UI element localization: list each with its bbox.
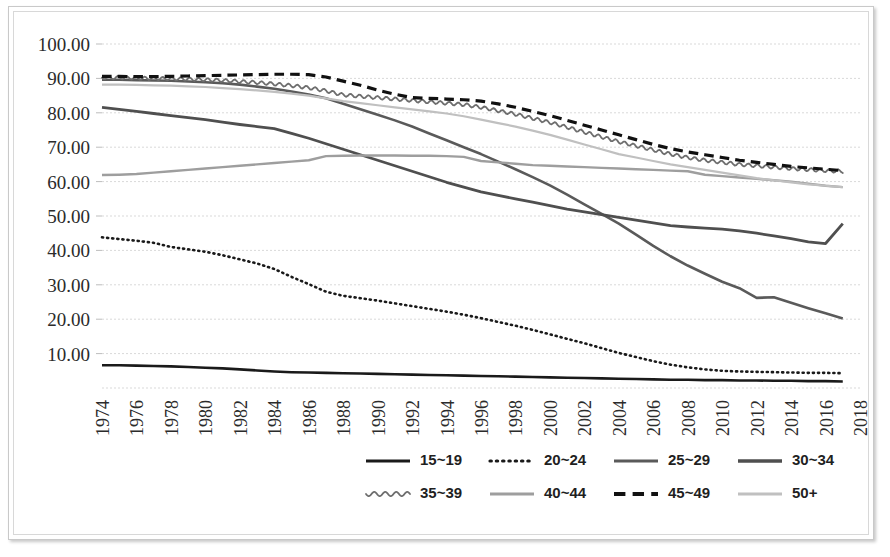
y-tick-label: 90.00 [47,68,90,89]
legend-item-20~24[interactable]: 20~24 [490,451,587,468]
legend-label-35~39: 35~39 [420,484,462,501]
x-tick-label: 1988 [334,400,354,436]
x-tick-label: 2012 [748,400,768,436]
series-line-30~34 [102,107,843,243]
legend-marker-35~39 [366,492,410,496]
legend-label-15~19: 15~19 [420,451,462,468]
legend-label-20~24: 20~24 [544,451,587,468]
legend-label-50+: 50+ [792,484,818,501]
x-axis-labels: 1974197619781980198219841986198819901992… [93,400,870,436]
x-tick-label: 1980 [196,400,216,436]
x-tick-label: 2002 [575,400,595,436]
x-tick-label: 1982 [231,400,251,436]
legend-item-45~49[interactable]: 45~49 [614,484,710,501]
y-axis-labels: 10.0020.0030.0040.0050.0060.0070.0080.00… [38,34,102,365]
legend-label-45~49: 45~49 [668,484,710,501]
line-chart: 10.0020.0030.0040.0050.0060.0070.0080.00… [14,12,870,536]
series-lines [102,74,843,381]
legend-item-40~44[interactable]: 40~44 [490,484,587,501]
legend-label-30~34: 30~34 [792,451,835,468]
y-tick-label: 50.00 [47,206,90,227]
y-tick-label: 80.00 [47,103,90,124]
series-line-25~29 [102,80,843,319]
series-line-20~24 [102,237,843,373]
y-tick-label: 10.00 [47,344,90,365]
x-tick-label: 1976 [127,400,147,436]
legend-item-50+[interactable]: 50+ [738,484,818,501]
x-tick-label: 1974 [93,400,113,436]
x-tick-label: 2006 [644,400,664,436]
y-tick-label: 70.00 [47,137,90,158]
legend-item-35~39[interactable]: 35~39 [366,484,462,501]
x-tick-label: 1992 [403,400,423,436]
legend-item-30~34[interactable]: 30~34 [738,451,835,468]
y-tick-label: 60.00 [47,172,90,193]
legend-label-40~44: 40~44 [544,484,587,501]
y-tick-label: 40.00 [47,240,90,261]
x-tick-label: 1998 [506,400,526,436]
x-tick-label: 1996 [472,400,492,436]
gridlines [102,44,860,388]
x-tick-label: 2000 [541,400,561,436]
legend-item-15~19[interactable]: 15~19 [366,451,462,468]
chart-inner-border: 10.0020.0030.0040.0050.0060.0070.0080.00… [13,11,869,535]
chart-frame: 10.0020.0030.0040.0050.0060.0070.0080.00… [8,6,874,540]
y-tick-label: 30.00 [47,275,90,296]
x-tick-label: 1978 [162,400,182,436]
y-tick-label: 100.00 [38,34,90,55]
series-line-40~44 [102,155,843,187]
x-tick-label: 2010 [713,400,733,436]
series-line-15~19 [102,365,843,381]
x-tick-label: 2004 [610,400,630,436]
chart-legend: 15~1920~2425~2930~3435~3940~4445~4950+ [366,451,835,501]
x-tick-label: 1984 [265,400,285,436]
x-tick-label: 2014 [782,400,802,436]
x-tick-label: 2008 [679,400,699,436]
series-line-45~49 [102,74,843,170]
x-tick-label: 1990 [369,400,389,436]
x-tick-label: 1994 [438,400,458,436]
x-tick-label: 1986 [300,400,320,436]
series-line-50+ [102,85,843,188]
x-tick-label: 2018 [851,400,870,436]
y-tick-label: 20.00 [47,309,90,330]
legend-label-25~29: 25~29 [668,451,710,468]
legend-item-25~29[interactable]: 25~29 [614,451,710,468]
x-tick-label: 2016 [817,400,837,436]
